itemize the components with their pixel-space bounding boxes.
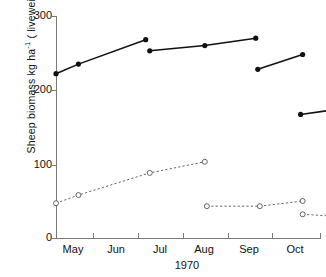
lower-open-series-point [300, 199, 305, 204]
upper-filled-series-point [76, 62, 81, 67]
lower-open-series-point [147, 170, 152, 175]
lower-open-series-line-segment-2 [207, 201, 303, 206]
upper-filled-series-line-segment-4 [301, 107, 326, 114]
plot-area [0, 0, 326, 277]
lower-open-series-point [202, 159, 207, 164]
lower-open-series-line-segment-3 [303, 214, 326, 217]
lower-open-series-point [257, 204, 262, 209]
lower-open-series-point [76, 193, 81, 198]
lower-open-series-point [54, 201, 59, 206]
upper-filled-series-point [255, 67, 260, 72]
upper-filled-series-point [147, 48, 152, 53]
upper-filled-series-point [53, 71, 58, 76]
upper-filled-series-point [298, 112, 303, 117]
upper-filled-series-point [143, 37, 148, 42]
upper-filled-series [53, 36, 326, 117]
chart-container: Sheep biomass kg ha-1 ( liveweight) 300 … [0, 0, 326, 277]
lower-open-series-point [204, 204, 209, 209]
upper-filled-series-point [202, 43, 207, 48]
upper-filled-series-point [300, 52, 305, 57]
lower-open-series [54, 159, 326, 220]
upper-filled-series-line-segment-3 [258, 54, 303, 69]
upper-filled-series-point [253, 36, 258, 41]
upper-filled-series-line-segment-1 [56, 40, 146, 74]
lower-open-series-point [300, 212, 305, 217]
